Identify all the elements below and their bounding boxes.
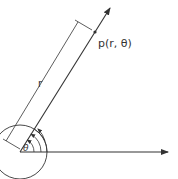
radial-ray (20, 8, 110, 152)
point-label: p(r, θ) (98, 37, 132, 50)
polar-coordinates-diagram: p(r, θ) r θ (0, 0, 178, 179)
angle-arc-middle (31, 134, 41, 152)
radius-label: r (38, 78, 43, 89)
radius-dimension (3, 20, 92, 149)
angle-label: θ (23, 143, 29, 153)
point-p (93, 30, 96, 33)
